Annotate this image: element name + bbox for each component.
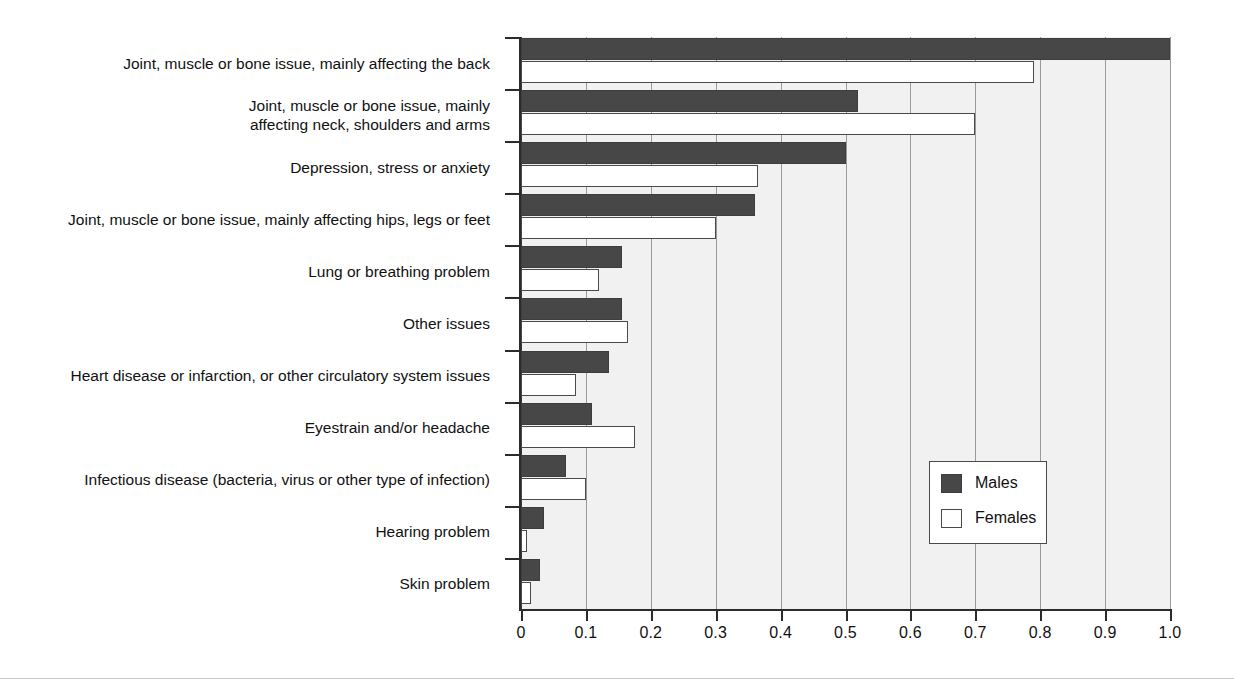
category-label: Lung or breathing problem (0, 262, 490, 281)
y-axis-tick (505, 297, 520, 299)
bar-females (521, 426, 635, 448)
bar-females (521, 530, 527, 552)
bar-males (521, 246, 622, 268)
x-axis-tick-label: 0.5 (816, 624, 876, 642)
x-axis-tick (586, 610, 588, 621)
x-axis-tick (781, 610, 783, 621)
bar-males (521, 298, 622, 320)
chart-category-band (521, 454, 1170, 506)
bar-males (521, 559, 540, 581)
plot-area (521, 37, 1170, 610)
x-axis-tick (975, 610, 977, 621)
bar-females (521, 269, 599, 291)
category-label: Heart disease or infarction, or other ci… (0, 366, 490, 385)
chart-category-band (521, 89, 1170, 141)
x-axis-tick (1170, 610, 1172, 621)
bar-males (521, 142, 846, 164)
chart-category-band (521, 141, 1170, 193)
chart-category-band (521, 245, 1170, 297)
category-label: Eyestrain and/or headache (0, 418, 490, 437)
legend-swatch-males-icon (941, 474, 962, 493)
x-axis-tick (1040, 610, 1042, 621)
x-axis-tick-label: 0.8 (1010, 624, 1070, 642)
x-axis-tick (716, 610, 718, 621)
legend-entry-females: Females (941, 505, 1036, 531)
x-axis-tick-label: 0 (491, 624, 551, 642)
x-axis-tick-label: 1.0 (1140, 624, 1200, 642)
legend-label-males: Males (975, 474, 1018, 492)
bar-males (521, 507, 544, 529)
y-axis-line (519, 37, 521, 611)
horizontal-bar-chart: Males Females 00.10.20.30.40.50.60.70.80… (0, 0, 1234, 700)
y-axis-tick (505, 89, 520, 91)
category-label: Joint, muscle or bone issue, mainlyaffec… (0, 96, 490, 134)
bar-males (521, 38, 1170, 60)
category-label: Joint, muscle or bone issue, mainly affe… (0, 54, 490, 73)
y-axis-tick (505, 350, 520, 352)
category-label: Hearing problem (0, 522, 490, 541)
x-axis-tick-label: 0.3 (686, 624, 746, 642)
x-axis-tick-label: 0.7 (945, 624, 1005, 642)
bar-males (521, 90, 858, 112)
y-axis-tick (505, 141, 520, 143)
y-axis-tick (505, 37, 520, 39)
bar-males (521, 403, 592, 425)
x-axis-tick (1105, 610, 1107, 621)
bar-females (521, 374, 576, 396)
bar-males (521, 455, 566, 477)
footer-divider (0, 678, 1234, 679)
legend-swatch-females-icon (941, 509, 962, 528)
x-axis-tick-label: 0.6 (880, 624, 940, 642)
bar-males (521, 194, 755, 216)
x-axis-tick (521, 610, 523, 621)
chart-category-band (521, 558, 1170, 610)
category-label: Infectious disease (bacteria, virus or o… (0, 470, 490, 489)
x-axis-tick (846, 610, 848, 621)
legend-entry-males: Males (941, 470, 1018, 496)
x-axis-tick-label: 0.9 (1075, 624, 1135, 642)
y-axis-tick (505, 402, 520, 404)
chart-category-band (521, 350, 1170, 402)
bar-females (521, 582, 531, 604)
category-label: Skin problem (0, 574, 490, 593)
y-axis-tick (505, 506, 520, 508)
y-axis-tick (505, 245, 520, 247)
category-label: Joint, muscle or bone issue, mainly affe… (0, 210, 490, 229)
bar-females (521, 217, 716, 239)
y-axis-tick (505, 454, 520, 456)
chart-category-band (521, 297, 1170, 349)
x-axis-tick-label: 0.2 (621, 624, 681, 642)
legend-label-females: Females (975, 509, 1036, 527)
x-gridline (1170, 37, 1171, 610)
bar-females (521, 321, 628, 343)
chart-category-band (521, 402, 1170, 454)
bar-females (521, 165, 758, 187)
x-axis-tick (651, 610, 653, 621)
x-axis-tick-label: 0.4 (751, 624, 811, 642)
bar-females (521, 478, 586, 500)
bar-females (521, 61, 1034, 83)
y-axis-tick (505, 193, 520, 195)
chart-legend: Males Females (929, 461, 1047, 544)
chart-category-band (521, 193, 1170, 245)
x-axis-tick-label: 0.1 (556, 624, 616, 642)
category-label: Depression, stress or anxiety (0, 158, 490, 177)
x-axis-tick (910, 610, 912, 621)
chart-category-band (521, 37, 1170, 89)
bar-females (521, 113, 975, 135)
y-axis-tick (505, 558, 520, 560)
chart-category-band (521, 506, 1170, 558)
bar-males (521, 351, 609, 373)
category-label: Other issues (0, 314, 490, 333)
